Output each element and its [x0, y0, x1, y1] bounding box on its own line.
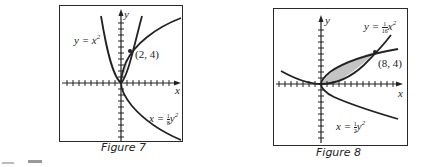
scan-artifact: [28, 160, 42, 163]
y-axis-label: y: [325, 14, 330, 26]
point-label: (8, 4): [378, 57, 402, 69]
intersection-point: [373, 50, 377, 54]
figure-8-caption: Figure 8: [316, 146, 361, 159]
curve-label-y-sixteenth-x2: y = 116x2: [364, 19, 396, 34]
x-axis-label: x: [398, 87, 403, 99]
shaded-region: [321, 52, 375, 85]
intersection-point: [128, 49, 132, 53]
figure-8-frame: y x y = 116x2 (8, 4) x = 12y2: [273, 8, 408, 146]
curve-label-x-eighth-y2: x = 18y2: [149, 111, 178, 126]
curve-label-y-x2: y = x2: [74, 33, 100, 46]
figure-7-caption: Figure 7: [101, 141, 146, 154]
curve-label-x-half-y2: x = 12y2: [336, 119, 365, 134]
scan-artifact: [2, 162, 14, 164]
x-axis-label: x: [175, 84, 180, 96]
point-label: (2, 4): [135, 48, 159, 60]
figure-7-frame: y x y = x2 (2, 4) x = 18y2: [59, 5, 183, 142]
y-axis-label: y: [124, 8, 129, 20]
